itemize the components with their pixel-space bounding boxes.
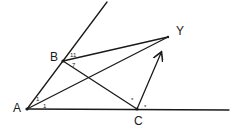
point-b [61,59,64,62]
label-y: Y [176,24,184,38]
label-b: B [50,50,58,64]
angle-mark-b-lower: 7 [72,62,76,68]
label-c: C [134,114,143,128]
angle-mark-b-upper: 11 [70,52,77,58]
ray-ab [27,2,107,109]
arrow-from-c [137,53,161,109]
geometry-diagram: A B C Y 1 1 11 7 * * [0,0,237,133]
angle-mark-a-lower: 1 [43,103,47,109]
ray-ac [27,109,229,110]
label-a: A [13,101,21,115]
point-c [135,107,138,110]
angle-mark-c-left: * [131,97,134,103]
angle-mark-a-upper: 1 [36,96,40,102]
point-a [25,107,28,110]
point-y [167,36,169,38]
segment-ay [27,37,168,109]
